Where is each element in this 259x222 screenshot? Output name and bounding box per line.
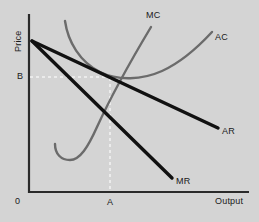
mr-line-label: MR [176,177,190,186]
origin-label: 0 [15,197,20,206]
x-tick-label-a: A [107,198,113,207]
y-tick-label-b: B [17,72,23,81]
ac-curve-label: AC [215,33,228,42]
y-axis-label: Price [14,30,23,52]
ar-line-label: AR [222,127,235,136]
chart-figure: Price Output 0 A B MC AC AR MR [0,0,259,222]
x-axis-label: Output [215,197,243,206]
guide-lines-group [30,77,111,191]
mc-curve-label: MC [146,11,160,20]
mc-curve [55,27,151,160]
mr-line [32,41,172,178]
